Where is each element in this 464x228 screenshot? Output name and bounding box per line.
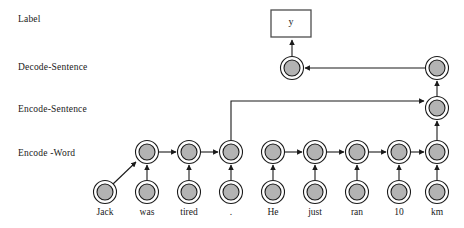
node-encode-word-he bbox=[262, 141, 285, 164]
output-label-y: y bbox=[271, 16, 311, 27]
node-word-tired bbox=[178, 181, 201, 204]
row-label-encode-word: Encode -Word bbox=[18, 148, 75, 158]
node-encode-word-was bbox=[136, 141, 159, 164]
node-word-period bbox=[220, 181, 243, 204]
row-label-encode-sentence: Encode-Sentence bbox=[18, 104, 87, 114]
node-encode-word-tired bbox=[178, 141, 201, 164]
node-word-jack bbox=[94, 181, 117, 204]
row-label-label: Label bbox=[18, 14, 41, 24]
node-encode-word-ran bbox=[346, 141, 369, 164]
node-encode-word-period bbox=[220, 141, 243, 164]
diagram-graphics bbox=[0, 0, 464, 228]
node-encode-word-just bbox=[304, 141, 327, 164]
edge-jack-diagonal bbox=[113, 162, 136, 184]
node-encode-word-km bbox=[426, 141, 449, 164]
node-decode-main bbox=[281, 57, 304, 80]
node-word-was bbox=[136, 181, 159, 204]
node-word-just bbox=[304, 181, 327, 204]
row-label-decode-sentence: Decode-Sentence bbox=[18, 62, 87, 72]
node-word-10 bbox=[388, 181, 411, 204]
node-encode-sentence bbox=[426, 97, 449, 120]
word-label-km: km bbox=[407, 207, 464, 217]
diagram-canvas: Label Decode-Sentence Encode-Sentence En… bbox=[0, 0, 464, 228]
node-word-ran bbox=[346, 181, 369, 204]
word-node-group bbox=[94, 181, 449, 204]
node-word-he bbox=[262, 181, 285, 204]
node-encode-word-10 bbox=[388, 141, 411, 164]
node-decode-right bbox=[426, 57, 449, 80]
edge-dot-to-encode-sentence bbox=[231, 101, 424, 140]
node-word-km bbox=[426, 181, 449, 204]
